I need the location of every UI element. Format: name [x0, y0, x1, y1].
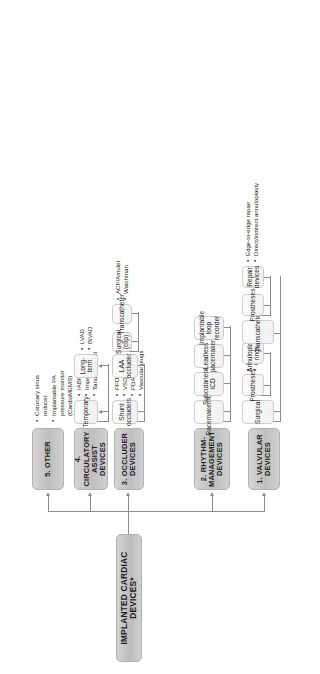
category-circulatory-label-line2: ASSIST DEVICES [91, 429, 108, 489]
bullet-direct-indirect-annuloplasty: Direct/indirect annuloplasty [252, 183, 260, 262]
node-surgical-valve: Surgical [242, 400, 274, 424]
transcatheter-riser-repair [264, 277, 270, 278]
rhythm-riser-1 [224, 411, 230, 412]
node-repair-devices: Repair devices [242, 266, 264, 288]
circulatory-child-bus [108, 364, 109, 422]
branch-line-rhythm [212, 496, 213, 512]
node-laa-occluder-label: LAA occluder [118, 354, 133, 379]
rhythm-riser-2 [224, 383, 230, 384]
category-circulatory-assist: 4. CIRCULATORY ASSIST DEVICES [74, 428, 108, 490]
bullets-repair-devices: Edge-to-edge repair Direct/indirect annu… [244, 183, 260, 262]
node-leadless-pacemaker: Leadless pacemaker [194, 344, 224, 368]
category-circulatory-label-line1: 4. CIRCULATORY [74, 429, 91, 489]
arrow-rhythm [210, 492, 214, 496]
category-valvular-devices: 1. VALVULAR DEVICES [248, 428, 280, 490]
surgical-child-bus [270, 352, 271, 396]
bullet-coronary-sinus-reducer: Coronary sinus reducer [33, 370, 49, 422]
arrow-temporary [98, 411, 102, 415]
node-transcatheter-laa: Transcatheter [112, 304, 132, 324]
valvular-riser-surgical [274, 411, 280, 412]
node-laa-occluder: LAA occluder [112, 354, 138, 378]
bullet-acp-amulet: ACP/Amulet [114, 261, 122, 300]
category-occluder-devices: 3. OCCLUDER DEVICES [114, 428, 144, 490]
node-transcatheter-valve: Transcatheter [242, 320, 274, 344]
category-rhythm-management: 2. RHYTHM- MANAGEMENT DEVICES [194, 428, 230, 490]
node-longterm-label: Long-term [79, 355, 94, 377]
transcatheter-riser-prostheses [264, 305, 270, 306]
bullet-bivad: BiVAD [86, 327, 94, 351]
node-loop-recorder-label: Implantable loop recorder [198, 311, 220, 345]
circulatory-riser-longterm [102, 365, 108, 366]
category-rhythm-label-line2: MANAGEMENT DEVICES [208, 429, 225, 489]
node-repair-devices-label: Repair devices [246, 266, 261, 288]
node-shunt-occluders-label: Shunt occluders [118, 398, 133, 426]
root-connector-stem [128, 512, 129, 534]
bullet-pa-pressure-monitor: Implantable PA pressure monitor (CardioM… [50, 370, 74, 422]
arrow-valvular [262, 492, 266, 496]
rhythm-riser-4 [224, 327, 230, 328]
node-surgical-valve-label: Surgical [254, 400, 261, 424]
diagram-stage: IMPLANTED CARDIAC DEVICES* 5. OTHER Coro… [20, 0, 280, 674]
category-other: 5. OTHER [32, 428, 64, 490]
node-temporary: Temporary [74, 400, 98, 424]
node-prostheses-surgical: Prostheses [242, 374, 264, 396]
branch-line-other [48, 496, 49, 512]
branch-line-valvular [264, 496, 265, 512]
bullet-watchman: Watchman [122, 261, 130, 300]
bullets-other: Coronary sinus reducer Implantable PA pr… [33, 370, 74, 422]
node-shunt-occluders: Shunt occluders [112, 400, 138, 424]
arrow-circulatory [88, 492, 92, 496]
rhythm-riser-3 [224, 355, 230, 356]
bullet-edge-to-edge-repair: Edge-to-edge repair [244, 183, 252, 262]
category-valvular-label: 1. VALVULAR DEVICES [256, 429, 273, 489]
laa-riser-transcatheter [132, 313, 138, 314]
root-node-implanted-cardiac-devices: IMPLANTED CARDIAC DEVICES* [116, 534, 142, 662]
rhythm-child-bus [230, 326, 231, 422]
category-other-label: 5. OTHER [44, 441, 52, 477]
arrow-other [46, 492, 50, 496]
bullets-longterm: LVAD BiVAD [78, 327, 94, 351]
node-prostheses-transcatheter-label: Prostheses [249, 289, 256, 322]
category-occluder-label: 3. OCCLUDER DEVICES [121, 429, 138, 489]
root-node-label: IMPLANTED CARDIAC DEVICES* [120, 535, 139, 661]
laa-riser-surgical [132, 341, 138, 342]
diagram-canvas: IMPLANTED CARDIAC DEVICES* 5. OTHER Coro… [20, 0, 280, 674]
node-longterm: Long-term [74, 354, 98, 378]
node-prostheses-transcatheter: Prostheses [242, 294, 264, 316]
branch-line-occluder [128, 496, 129, 512]
branch-line-circulatory [90, 496, 91, 512]
root-connector-bus [48, 511, 264, 512]
node-implantable-loop-recorder: Implantable loop recorder [194, 316, 224, 340]
node-temporary-label: Temporary [82, 396, 89, 427]
arrow-occluder [126, 492, 130, 496]
node-surgical-clip: Surgical (clip) [112, 332, 132, 352]
surgical-riser-prostheses [264, 385, 270, 386]
laa-child-bus [138, 312, 139, 352]
surgical-riser-rings [264, 353, 270, 354]
node-subcutaneous-icd: Subcutaneous ICD [194, 372, 224, 396]
occluder-riser-shunt [138, 411, 144, 412]
circulatory-riser-temporary [102, 411, 108, 412]
valvular-riser-transcatheter [274, 333, 280, 334]
transcatheter-child-bus [270, 276, 271, 316]
node-prostheses-surgical-label: Prostheses [249, 369, 256, 402]
bullets-transcatheter-laa: ACP/Amulet Watchman [114, 261, 130, 300]
bullet-lvad: LVAD [78, 327, 86, 351]
